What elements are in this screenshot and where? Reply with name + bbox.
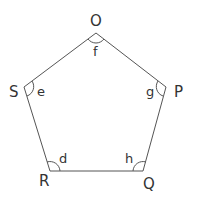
angle-label-d: d — [59, 151, 67, 166]
vertex-label-o: O — [90, 12, 102, 30]
diagram-svg: O P Q R S f e g d h — [0, 0, 199, 203]
vertex-label-p: P — [174, 83, 183, 101]
angle-label-f: f — [93, 44, 98, 59]
angle-arc-e — [27, 81, 34, 96]
angle-arc-f — [88, 39, 104, 43]
vertex-label-q: Q — [143, 175, 155, 193]
angle-arc-g — [156, 81, 163, 96]
vertex-label-s: S — [9, 83, 19, 101]
angle-label-e: e — [37, 84, 45, 99]
angle-label-g: g — [146, 84, 154, 99]
pentagon-diagram: O P Q R S f e g d h — [0, 0, 199, 203]
vertex-label-r: R — [39, 172, 49, 190]
angle-label-h: h — [125, 151, 133, 166]
